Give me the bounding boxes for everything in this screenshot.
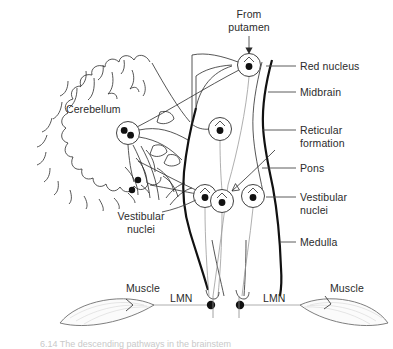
label-lmn-right: LMN bbox=[263, 292, 285, 305]
label-vestibular-nuclei-right: Vestibular nuclei bbox=[300, 191, 347, 216]
deep-cerebellar-nuclei bbox=[117, 122, 140, 145]
brainstem-outline bbox=[183, 60, 281, 296]
label-cerebellum: Cerebellum bbox=[66, 103, 121, 116]
label-midbrain: Midbrain bbox=[300, 86, 341, 99]
vestibular-nucleus-mid bbox=[211, 190, 234, 213]
label-from-putamen: From putamen bbox=[218, 8, 280, 33]
lmn-soma-left bbox=[207, 301, 215, 309]
label-lmn-left: LMN bbox=[170, 292, 192, 305]
deep-nuclei-somas bbox=[129, 177, 141, 193]
muscle-left bbox=[60, 299, 154, 326]
label-reticular-formation: Reticular formation bbox=[300, 124, 345, 149]
label-medulla: Medulla bbox=[300, 236, 337, 249]
muscle-right bbox=[300, 296, 388, 326]
vestibular-nucleus-right bbox=[242, 185, 265, 208]
figure-caption: 6.14 The descending pathways in the brai… bbox=[40, 339, 380, 349]
descending-pathways bbox=[128, 54, 275, 296]
lmn-soma-right bbox=[236, 301, 244, 309]
label-muscle-right: Muscle bbox=[330, 282, 364, 295]
label-vestibular-nuclei-left: Vestibular nuclei bbox=[104, 210, 178, 235]
from-putamen-arrowhead bbox=[245, 48, 252, 54]
reticular-formation-neuron bbox=[209, 118, 232, 141]
label-muscle-left: Muscle bbox=[126, 282, 160, 295]
label-red-nucleus: Red nucleus bbox=[300, 60, 359, 73]
red-nucleus-neuron bbox=[238, 54, 261, 77]
cerebellum-outline bbox=[37, 55, 161, 211]
label-pons: Pons bbox=[300, 162, 324, 175]
